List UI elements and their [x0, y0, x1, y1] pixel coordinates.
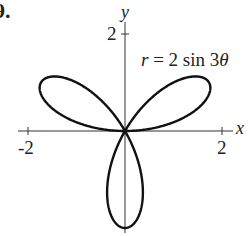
y-tick-label-2: 2 — [107, 23, 117, 45]
y-axis-label: y — [121, 2, 129, 23]
problem-label: 9. — [0, 0, 11, 24]
equation-theta: θ — [219, 49, 228, 70]
x-axis-label: x — [236, 118, 244, 139]
x-tick-label-neg2: -2 — [18, 137, 34, 159]
x-tick-label-2: 2 — [217, 137, 227, 159]
equation-body: = 2 sin 3 — [148, 49, 219, 70]
equation-label: r = 2 sin 3θ — [141, 49, 229, 71]
polar-plot — [0, 0, 250, 236]
